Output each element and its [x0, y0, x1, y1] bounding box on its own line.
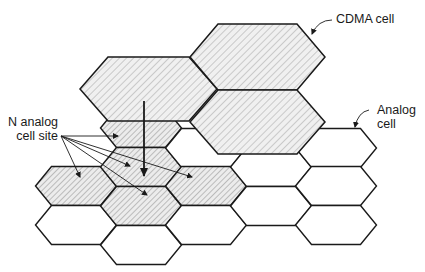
cdma-top-right — [190, 24, 325, 90]
cdma-cell-leader — [312, 20, 332, 34]
analog-cell-label-line1: Analog — [377, 104, 416, 117]
n-analog-cell-site-label: N analog cell site — [8, 116, 58, 143]
analog-cell — [296, 206, 377, 245]
n-analog-label-line1: N analog — [8, 116, 58, 129]
analog-cell-label-line2: cell — [377, 118, 416, 131]
diagram-canvas — [0, 0, 425, 272]
analog-cell-leader — [355, 110, 369, 127]
analog-cell — [101, 226, 182, 265]
cdma-lower-right — [190, 90, 325, 154]
cdma-analog-overlay-diagram: CDMA cell Analog cell N analog cell site — [0, 0, 425, 272]
label-leaders — [312, 20, 369, 127]
analog-cell — [296, 167, 377, 206]
analog-cell-label: Analog cell — [377, 104, 416, 131]
cdma-cell-label: CDMA cell — [336, 13, 394, 26]
n-analog-label-line2: cell site — [8, 130, 58, 143]
cdma-upper-left — [80, 57, 217, 121]
